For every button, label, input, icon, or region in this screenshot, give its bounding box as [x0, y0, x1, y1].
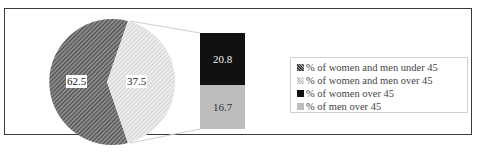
pie-label-under45: 62.5 — [66, 75, 87, 88]
bar-label-men: 16.7 — [200, 101, 245, 114]
hatch-dark-swatch-icon — [297, 64, 304, 71]
legend-item-under45: % of women and men under 45 — [297, 61, 467, 74]
legend-item-men-over45: % of men over 45 — [297, 100, 467, 113]
legend-item-women-over45: % of women over 45 — [297, 87, 467, 100]
legend-label: % of women and men under 45 — [306, 62, 438, 73]
bar-label-women: 20.8 — [200, 53, 245, 66]
legend: % of women and men under 45 % of women a… — [290, 57, 468, 113]
hatch-light-swatch-icon — [297, 77, 304, 84]
gray-swatch-icon — [297, 103, 304, 110]
pie-label-over45: 37.5 — [126, 75, 147, 88]
black-swatch-icon — [297, 90, 304, 97]
legend-label: % of men over 45 — [306, 101, 381, 112]
legend-label: % of women and men over 45 — [306, 75, 433, 86]
legend-item-over45: % of women and men over 45 — [297, 74, 467, 87]
legend-label: % of women over 45 — [306, 88, 394, 99]
